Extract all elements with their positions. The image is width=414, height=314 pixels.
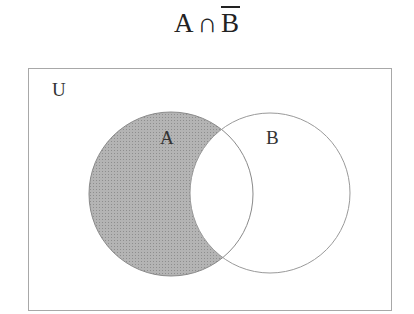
venn-diagram: U A B [0,0,414,314]
set-b-label: B [266,127,279,148]
universe-label: U [52,79,66,100]
set-a-label: A [160,127,174,148]
